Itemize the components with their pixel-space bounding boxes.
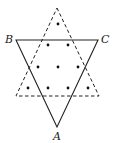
- solid-triangle-abc: [16, 40, 98, 127]
- lattice-dot: [47, 87, 50, 90]
- star-diagram: B C A: [0, 0, 113, 143]
- lattice-dot: [57, 66, 60, 69]
- lattice-dot: [37, 66, 40, 69]
- vertex-label-c: C: [101, 33, 110, 46]
- lattice-dot: [57, 23, 60, 26]
- lattice-dot: [27, 87, 30, 90]
- dashed-triangle: [16, 8, 99, 96]
- vertex-label-a: A: [52, 130, 61, 143]
- lattice-dot: [77, 66, 80, 69]
- lattice-dot: [87, 87, 90, 90]
- lattice-dot: [67, 87, 70, 90]
- lattice-dot: [67, 44, 70, 47]
- lattice-dot: [47, 44, 50, 47]
- vertex-label-b: B: [4, 33, 13, 46]
